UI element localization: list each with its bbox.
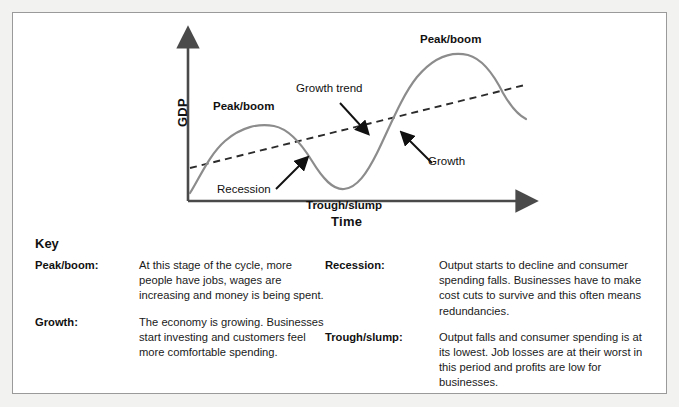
growth-label: Growth bbox=[428, 155, 465, 167]
recession-arrow bbox=[276, 165, 300, 189]
key-term: Peak/boom: bbox=[35, 258, 139, 304]
peak-boom-label-2: Peak/boom bbox=[420, 33, 481, 45]
key-description: The economy is growing. Businesses start… bbox=[139, 315, 325, 361]
trough-slump-label: Trough/slump bbox=[306, 199, 382, 211]
key-description: Output starts to decline and consumer sp… bbox=[439, 258, 655, 319]
key-entry: Growth: The economy is growing. Business… bbox=[35, 315, 325, 361]
key-description: Output falls and consumer spending is at… bbox=[439, 330, 655, 391]
growth-trend-label: Growth trend bbox=[296, 82, 362, 94]
key-term: Trough/slump: bbox=[325, 330, 439, 391]
peak-boom-label-1: Peak/boom bbox=[213, 100, 274, 112]
recession-label: Recession bbox=[217, 183, 271, 195]
chart-svg bbox=[13, 13, 668, 225]
key-term: Recession: bbox=[325, 258, 439, 319]
growth-trend-line bbox=[190, 85, 525, 168]
key-column-right: Recession: Output starts to decline and … bbox=[325, 258, 655, 402]
figure-card: GDP Time Peak/boom Peak/boom Growth tren… bbox=[12, 12, 667, 394]
key-entry: Trough/slump: Output falls and consumer … bbox=[325, 330, 655, 391]
key-description: At this stage of the cycle, more people … bbox=[139, 258, 325, 304]
y-axis-title: GDP bbox=[175, 98, 190, 127]
key-entry: Peak/boom: At this stage of the cycle, m… bbox=[35, 258, 325, 304]
growth-trend-arrow bbox=[340, 103, 361, 126]
key-column-left: Peak/boom: At this stage of the cycle, m… bbox=[35, 258, 325, 371]
key-term: Growth: bbox=[35, 315, 139, 361]
page-root: GDP Time Peak/boom Peak/boom Growth tren… bbox=[0, 0, 679, 407]
key-entry: Recession: Output starts to decline and … bbox=[325, 258, 655, 319]
key-section: Key Peak/boom: At this stage of the cycl… bbox=[13, 225, 668, 395]
key-heading: Key bbox=[35, 236, 59, 251]
business-cycle-chart: GDP Time Peak/boom Peak/boom Growth tren… bbox=[13, 13, 668, 225]
